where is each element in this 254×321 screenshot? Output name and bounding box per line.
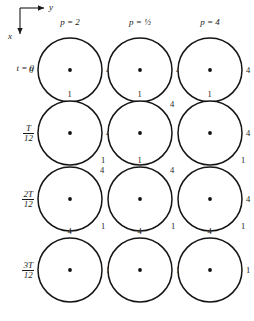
dial-hub: [68, 197, 72, 201]
dial-tick-label: 1: [68, 89, 72, 99]
dial-hub: [208, 268, 212, 272]
dial-hub: [208, 131, 212, 135]
dial-hub: [138, 197, 142, 201]
dial-hub: [68, 68, 72, 72]
dial-hub: [138, 68, 142, 72]
axis-label-x: x: [8, 32, 12, 41]
dial-hub: [138, 268, 142, 272]
dial-tick-label: 4: [246, 65, 251, 75]
dial-svg: 41: [164, 224, 254, 316]
dial-tick-label: 4: [246, 194, 251, 204]
dial-tick-label: 0: [29, 65, 33, 75]
dial-tick-label: 1: [208, 89, 212, 99]
dial-tick-label: 4: [246, 128, 251, 138]
axis-label-y: y: [49, 3, 53, 12]
dial-tick-label: 4: [68, 226, 73, 236]
dial-panel: 41: [164, 224, 254, 316]
dial-hub: [208, 68, 212, 72]
dial-hub: [68, 268, 72, 272]
dial-tick-label: 4: [208, 226, 213, 236]
dial-tick-label: 1: [246, 265, 250, 275]
phasor-dial-figure: y x p = 2 p = ½ p = 4 t = 0 T 12 2T 12 3…: [0, 0, 254, 321]
dial-tick-label: 1: [138, 155, 142, 165]
dial-hub: [208, 197, 212, 201]
dial-tick-label: 4: [138, 226, 143, 236]
dial-hub: [68, 131, 72, 135]
dial-tick-label: 1: [138, 89, 142, 99]
dial-hub: [138, 131, 142, 135]
